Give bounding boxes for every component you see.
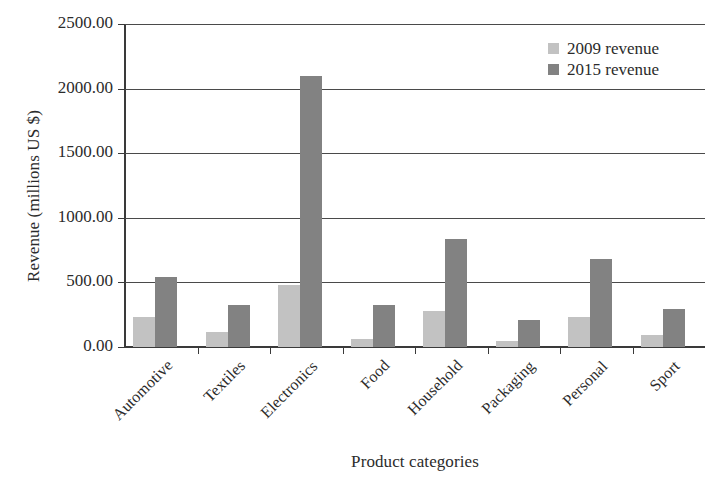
gridline	[125, 24, 705, 25]
x-tick-mark	[633, 347, 634, 354]
bar	[278, 285, 300, 347]
bar-chart: Revenue (millions US $) 0.00500.001000.0…	[0, 0, 727, 493]
gridline	[125, 218, 705, 219]
gridline	[125, 153, 705, 154]
bar	[568, 317, 590, 347]
y-tick-label: 2500.00	[58, 13, 113, 33]
x-axis-title: Product categories	[125, 452, 705, 472]
y-tick-label: 500.00	[66, 271, 113, 291]
legend-swatch-icon	[548, 64, 559, 75]
y-tick-mark	[118, 282, 125, 283]
bar	[300, 76, 322, 347]
y-tick-mark	[118, 218, 125, 219]
y-axis-title: Revenue (millions US $)	[24, 46, 44, 346]
y-tick-label: 1500.00	[58, 142, 113, 162]
legend-item: 2009 revenue	[548, 38, 723, 59]
gridline	[125, 89, 705, 90]
x-tick-mark	[270, 347, 271, 354]
bar	[445, 239, 467, 347]
bar	[590, 259, 612, 347]
bar	[133, 317, 155, 347]
x-tick-label: Food	[357, 357, 393, 393]
y-tick-label: 2000.00	[58, 78, 113, 98]
bar	[641, 335, 663, 347]
bar	[155, 277, 177, 347]
x-tick-mark	[560, 347, 561, 354]
y-tick-label: 1000.00	[58, 207, 113, 227]
x-tick-label: Automotive	[109, 357, 176, 424]
y-axis-spine	[124, 24, 126, 347]
bar	[373, 305, 395, 347]
x-tick-label: Household	[404, 357, 466, 419]
legend-label: 2015 revenue	[567, 61, 659, 78]
legend-swatch-icon	[548, 43, 559, 54]
y-tick-label: 0.00	[83, 336, 113, 356]
bar	[351, 339, 373, 347]
legend: 2009 revenue 2015 revenue	[548, 38, 723, 80]
y-tick-mark	[118, 89, 125, 90]
x-tick-mark	[488, 347, 489, 354]
x-tick-label: Sport	[646, 357, 684, 395]
y-tick-mark	[118, 24, 125, 25]
bar	[206, 332, 228, 348]
y-tick-mark	[118, 347, 125, 348]
x-tick-label: Textiles	[200, 357, 249, 406]
x-tick-label: Packaging	[478, 357, 539, 418]
bar	[228, 305, 250, 347]
bar	[496, 341, 518, 347]
gridline	[125, 282, 705, 283]
bar	[423, 311, 445, 347]
legend-label: 2009 revenue	[567, 40, 659, 57]
x-tick-label: Electronics	[257, 357, 321, 421]
y-tick-mark	[118, 153, 125, 154]
legend-item: 2015 revenue	[548, 59, 723, 80]
x-tick-mark	[415, 347, 416, 354]
bar	[518, 320, 540, 347]
x-tick-mark	[343, 347, 344, 354]
bar	[663, 309, 685, 347]
x-tick-mark	[198, 347, 199, 354]
x-tick-label: Personal	[559, 357, 611, 409]
